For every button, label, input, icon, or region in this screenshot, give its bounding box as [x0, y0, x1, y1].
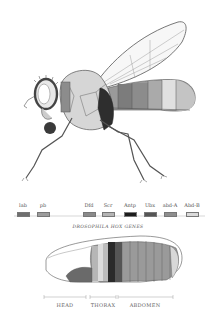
fly-abdomen: [108, 79, 195, 111]
gene-label-lab: lab: [19, 202, 27, 208]
gene-label-pb: pb: [40, 202, 46, 208]
figure-caption: DROSOPHILA HOX GENES: [0, 224, 216, 229]
fly-head: [24, 75, 58, 134]
gene-bar-pb: [37, 212, 50, 217]
fly-wing: [94, 22, 186, 88]
gene-label-abd-b: Abd-B: [184, 202, 199, 208]
gene-bar-dfd: [83, 212, 96, 217]
drosophila-hox-diagram: [0, 0, 216, 324]
region-label-thorax: THORAX: [91, 302, 116, 308]
gene-label-ubx: Ubx: [145, 202, 155, 208]
region-brackets: [44, 295, 173, 299]
embryo: [46, 236, 182, 282]
gene-bar-antp: [124, 212, 137, 217]
gene-label-antp: Antp: [124, 202, 136, 208]
gene-label-dfd: Dfd: [84, 202, 93, 208]
gene-bar-abd-b: [186, 212, 199, 217]
gene-bar-ubx: [144, 212, 157, 217]
region-label-head: HEAD: [57, 302, 74, 308]
region-label-abdomen: ABDOMEN: [130, 302, 161, 308]
gene-bar-scr: [102, 212, 115, 217]
gene-bar-abd-a: [164, 212, 177, 217]
gene-bar-lab: [17, 212, 30, 217]
gene-label-scr: Scr: [104, 202, 113, 208]
gene-label-abd-a: abd-A: [163, 202, 178, 208]
